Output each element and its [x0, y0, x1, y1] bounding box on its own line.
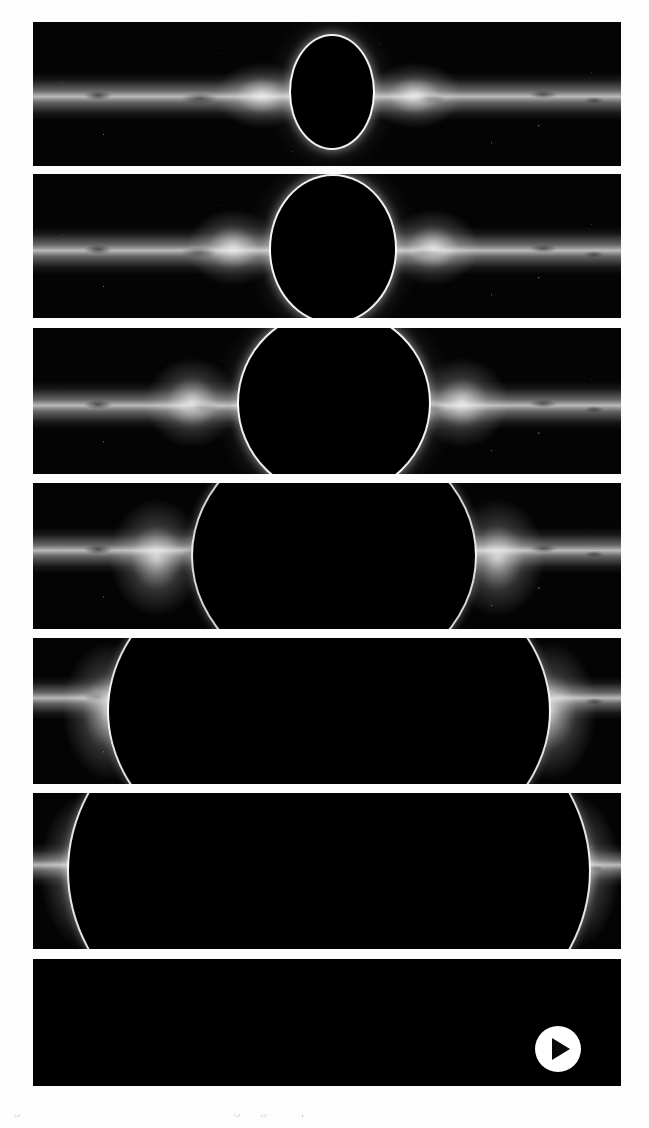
black-hole-shadow-1 [291, 36, 373, 148]
black-hole-shadow-6 [69, 793, 589, 949]
lensed-band-right-3 [415, 357, 509, 448]
sequence-frame-7[interactable] [33, 959, 621, 1086]
caption-strip: Fig. 1 — simulated view of a black hole … [0, 1114, 649, 1128]
lensed-band-left-2 [186, 209, 280, 287]
sequence-frame-6[interactable] [33, 793, 621, 949]
play-button[interactable] [535, 1026, 581, 1072]
black-hole-shadow-3 [239, 328, 429, 474]
play-triangle-icon [552, 1038, 570, 1060]
black-hole-shadow-4 [193, 483, 475, 629]
black-hole-shadow-5 [109, 638, 549, 784]
lensed-band-left-4 [109, 498, 203, 618]
sequence-frame-5[interactable] [33, 638, 621, 784]
figure-caption-cutoff: Fig. 1 — simulated view of a black hole … [4, 1114, 327, 1117]
sequence-frame-3[interactable] [33, 328, 621, 474]
black-hole-shadow-2 [271, 176, 395, 318]
lensed-band-left-3 [145, 357, 239, 448]
page-root: Fig. 1 — simulated view of a black hole … [0, 0, 649, 1128]
sequence-frame-2[interactable] [33, 174, 621, 318]
sequence-frame-4[interactable] [33, 483, 621, 629]
lensed-band-right-1 [368, 62, 462, 128]
lensing-sequence-figure [33, 22, 621, 1086]
lensed-band-right-2 [386, 209, 480, 287]
sequence-frame-1[interactable] [33, 22, 621, 166]
black-hole-shadow-7 [33, 959, 621, 1086]
